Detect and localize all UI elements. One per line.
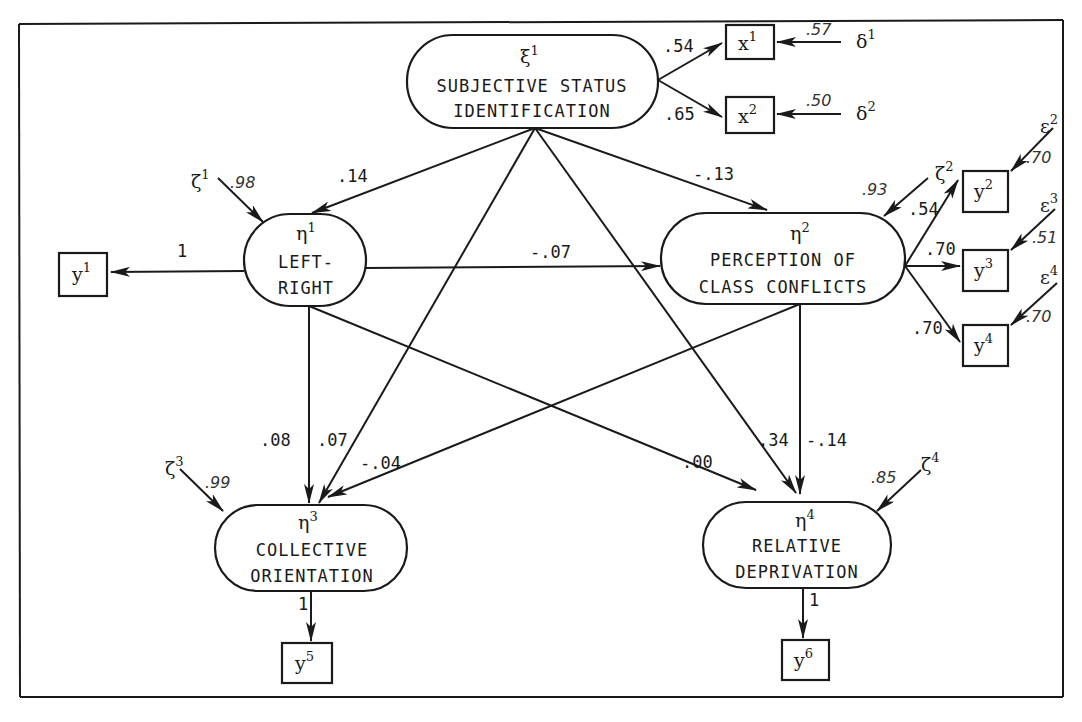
coef-eta2-eta3: -.04 [360,453,401,473]
coef-xi1-eta2: -.13 [693,164,734,184]
eta2-label-line2: CLASS CONFLICTS [699,277,868,297]
arrow-eta1-y1 [111,271,244,272]
eps2-symbol: ε2 [1040,112,1058,137]
delta1-symbol: δ1 [856,27,876,52]
arrow-eta1-eta2 [366,266,660,268]
eta1-label-line2: RIGHT [278,278,334,298]
observed-x2[interactable]: x2 [726,97,774,133]
zeta1-symbol: ζ1 [191,167,210,192]
eta4-symbol: η [795,509,806,531]
observed-y5[interactable]: y5 [282,643,332,683]
coef-eta1-eta4: .00 [682,452,713,472]
latent-xi1[interactable]: ξ1 SUBJECTIVE STATUS IDENTIFICATION [407,35,658,128]
coef-eta1-y1: 1 [177,241,187,261]
observed-y6[interactable]: y6 [782,640,829,680]
eta3-label-line1: COLLECTIVE [256,540,368,560]
eps4-value: .70 [1026,307,1051,326]
latent-eta3[interactable]: η3 COLLECTIVE ORIENTATION [215,505,407,591]
coef-eta2-eta4: -.14 [806,430,847,450]
arrow-xi1-eta4 [535,128,796,493]
eta2-symbol: η [790,222,801,244]
zeta4-value: .85 [871,468,896,487]
eta2-label-line1: PERCEPTION OF [710,250,856,270]
latent-eta2[interactable]: η2 PERCEPTION OF CLASS CONFLICTS [661,213,905,304]
coef-xi1-x2: .65 [664,104,695,124]
coef-xi1-eta1: .14 [337,166,368,186]
latent-eta4[interactable]: η4 RELATIVE DEPRIVATION [703,502,891,588]
observed-x1[interactable]: x1 [726,25,774,59]
eta4-label-line2: DEPRIVATION [735,562,859,582]
path-diagram: ξ1 SUBJECTIVE STATUS IDENTIFICATION η1 L… [0,0,1082,722]
latent-eta1[interactable]: η1 LEFT- RIGHT [244,214,366,306]
eta3-symbol: η [298,511,309,533]
eta3-label-line2: ORIENTATION [250,566,374,586]
zeta3-symbol: ζ3 [165,454,184,479]
eps2-value: .70 [1026,148,1051,167]
delta2-symbol: δ2 [856,99,876,124]
coef-eta2-y3: .70 [925,239,956,259]
zeta1-value: .98 [230,173,255,192]
zeta4-symbol: ζ4 [921,450,940,475]
coef-eta2-y2: .54 [908,199,939,219]
coef-eta1-eta2: -.07 [530,242,571,262]
coef-xi1-eta3: .07 [317,430,348,450]
xi1-symbol: ξ [520,45,530,67]
zeta2-value: .93 [862,180,887,199]
zeta2-symbol: ζ2 [935,159,954,184]
eta1-label-line1: LEFT- [278,252,334,272]
observed-y3[interactable]: y3 [963,250,1008,291]
delta2-value: .50 [806,91,831,110]
xi1-label-line2: IDENTIFICATION [453,101,610,121]
delta1-value: .57 [806,20,832,39]
zeta3-value: .99 [205,473,230,492]
observed-y2[interactable]: y2 [963,171,1008,212]
coef-eta2-y4: .70 [912,318,943,338]
coef-eta1-eta3: .08 [260,430,291,450]
eps3-symbol: ε3 [1040,191,1058,216]
eta1-symbol: η [296,222,307,244]
xi1-label-line1: SUBJECTIVE STATUS [437,76,628,96]
eps3-value: .51 [1032,228,1057,247]
coef-xi1-eta4: .34 [758,430,789,450]
coef-eta4-y6: 1 [809,590,819,610]
observed-y1[interactable]: y1 [59,253,107,296]
coef-xi1-x1: .54 [663,36,694,56]
coef-eta3-y5: 1 [298,594,308,614]
eta4-label-line1: RELATIVE [752,536,842,556]
observed-y4[interactable]: y4 [963,325,1008,366]
